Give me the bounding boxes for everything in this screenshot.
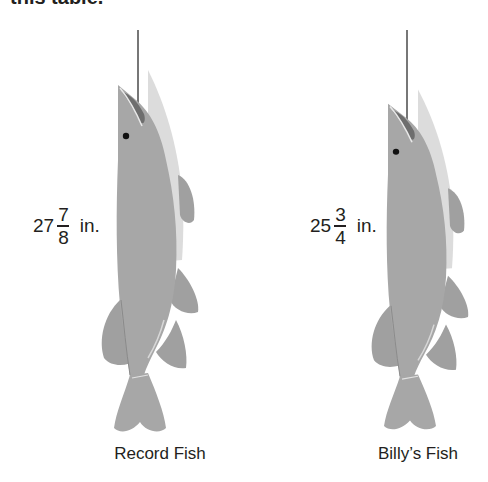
billys-fish-drawing [372, 90, 469, 430]
length-fraction: 3 4 [334, 205, 347, 247]
length-unit: in. [80, 215, 100, 237]
fraction-numerator: 7 [57, 205, 70, 224]
fraction-denominator: 4 [335, 228, 346, 247]
length-whole: 25 [310, 215, 331, 237]
record-fish-length: 27 7 8 in. [33, 205, 100, 247]
fraction-denominator: 8 [58, 228, 69, 247]
billys-fish-length: 25 3 4 in. [310, 205, 377, 247]
fraction-numerator: 3 [334, 205, 347, 224]
length-fraction: 7 8 [57, 205, 70, 247]
billys-fish-label: Billy’s Fish [348, 444, 488, 464]
record-fish-label: Record Fish [90, 444, 230, 464]
record-fish-drawing [102, 70, 199, 431]
length-unit: in. [357, 215, 377, 237]
length-whole: 27 [33, 215, 54, 237]
